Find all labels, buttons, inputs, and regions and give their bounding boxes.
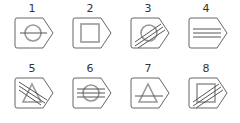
tag-triangle-horizontal-line-icon <box>129 76 173 110</box>
tag-circle-horizontal-line-icon <box>13 16 57 50</box>
figure-item-2: 2 <box>68 3 118 53</box>
item-label: 3 <box>126 3 170 15</box>
figure-item-4: 4 <box>184 3 234 53</box>
item-label: 4 <box>184 3 228 15</box>
tag-circle-diagonal-lines-icon <box>129 16 173 50</box>
figure-item-3: 3 <box>126 3 176 53</box>
item-label: 5 <box>10 63 54 75</box>
figure-item-6: 6 <box>68 63 118 113</box>
tag-horizontal-lines-icon <box>187 16 231 50</box>
figure-item-1: 1 <box>10 3 60 53</box>
tag-circle-horizontal-lines-icon <box>71 76 115 110</box>
item-label: 1 <box>10 3 54 15</box>
figure-item-8: 8 <box>184 63 234 113</box>
figure-item-7: 7 <box>126 63 176 113</box>
item-label: 2 <box>68 3 112 15</box>
item-label: 7 <box>126 63 170 75</box>
item-label: 6 <box>68 63 112 75</box>
tag-triangle-diagonal-lines-icon <box>13 76 57 110</box>
tag-square-diagonal-lines-icon <box>187 76 231 110</box>
tag-square-icon <box>71 16 115 50</box>
figure-item-5: 5 <box>10 63 60 113</box>
item-label: 8 <box>184 63 228 75</box>
